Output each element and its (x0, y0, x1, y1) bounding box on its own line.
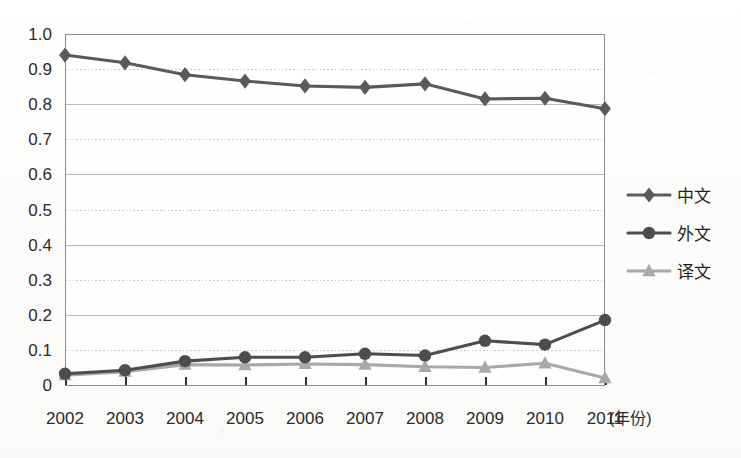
chart-canvas: 1.00.90.80.70.60.50.40.30.20.10 20022003… (0, 0, 741, 458)
x-axis-tick-label: 2003 (106, 409, 144, 428)
legend-label: 外文 (677, 225, 711, 244)
data-point-marker (419, 349, 431, 361)
y-axis-tick-label: 0.1 (28, 341, 52, 360)
x-axis-tick-label: 2004 (166, 409, 204, 428)
line-chart-figure: 1.00.90.80.70.60.50.40.30.20.10 20022003… (0, 0, 741, 458)
x-axis-tick-label: 2007 (346, 409, 384, 428)
data-point-marker (119, 364, 131, 376)
y-axis-tick-label: 0.6 (28, 165, 52, 184)
data-point-marker (359, 348, 371, 360)
y-axis-tick-label: 1.0 (28, 25, 52, 44)
data-point-marker (539, 338, 551, 350)
data-point-marker (239, 351, 251, 363)
chart-legend: 中文外文译文 (628, 187, 711, 282)
y-axis-tick-label: 0.5 (28, 201, 52, 220)
data-point-marker (59, 368, 71, 380)
y-axis-tick-label: 0.9 (28, 60, 52, 79)
x-axis-tick-label: 2009 (466, 409, 504, 428)
x-axis-tick-label: 2008 (406, 409, 444, 428)
data-point-marker (599, 314, 611, 326)
x-axis-tick-label: 2002 (46, 409, 84, 428)
y-axis-tick-labels: 1.00.90.80.70.60.50.40.30.20.10 (28, 25, 52, 395)
x-axis-tick-label: 2006 (286, 409, 324, 428)
data-point-marker (479, 335, 491, 347)
legend-circle-marker-icon (643, 227, 655, 239)
x-axis-tick-label: 2010 (526, 409, 564, 428)
x-axis-tick-label: 2005 (226, 409, 264, 428)
x-axis-unit-label: (年份) (609, 410, 652, 427)
data-point-marker (299, 351, 311, 363)
data-point-marker (179, 355, 191, 367)
y-axis-tick-label: 0.7 (28, 130, 52, 149)
x-axis-tick-labels: 2002200320042005200620072008200920102011 (46, 409, 623, 428)
y-axis-tick-label: 0 (43, 376, 52, 395)
y-axis-tick-label: 0.3 (28, 271, 52, 290)
y-axis-tick-label: 0.2 (28, 306, 52, 325)
legend-diamond-marker-icon (643, 187, 655, 202)
legend-label: 中文 (677, 187, 711, 206)
y-axis-tick-label: 0.8 (28, 95, 52, 114)
legend-label: 译文 (677, 263, 711, 282)
y-axis-tick-label: 0.4 (28, 236, 52, 255)
